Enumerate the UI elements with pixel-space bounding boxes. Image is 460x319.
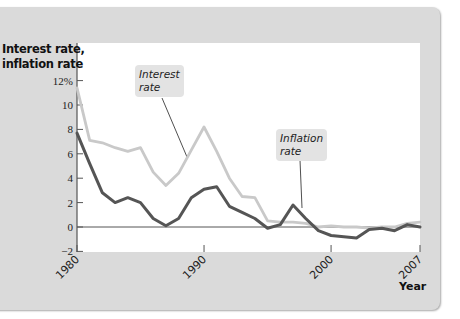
y-tick-label: 8 [68, 123, 74, 135]
interest-rate-callout: Interest rate [135, 65, 184, 97]
plot-area [77, 43, 420, 252]
y-tick-label: 0 [68, 221, 74, 233]
inflation-rate-callout: Inflation rate [276, 129, 327, 161]
y-tick-label: 2 [68, 197, 74, 209]
y-tick-label: 4 [68, 172, 74, 184]
x-tick-label: 2007 [396, 253, 425, 282]
x-tick-label: 2000 [307, 253, 336, 282]
y-tick-label: 6 [68, 148, 74, 160]
y-axis-title: Interest rate, inflation rate [2, 42, 84, 72]
y-tick-label: 12% [53, 75, 73, 87]
y-tick-label: 10 [62, 99, 74, 111]
x-tick-label: 1990 [180, 253, 209, 282]
x-tick-label: 1980 [53, 253, 82, 282]
x-axis-title: Year [399, 280, 426, 293]
